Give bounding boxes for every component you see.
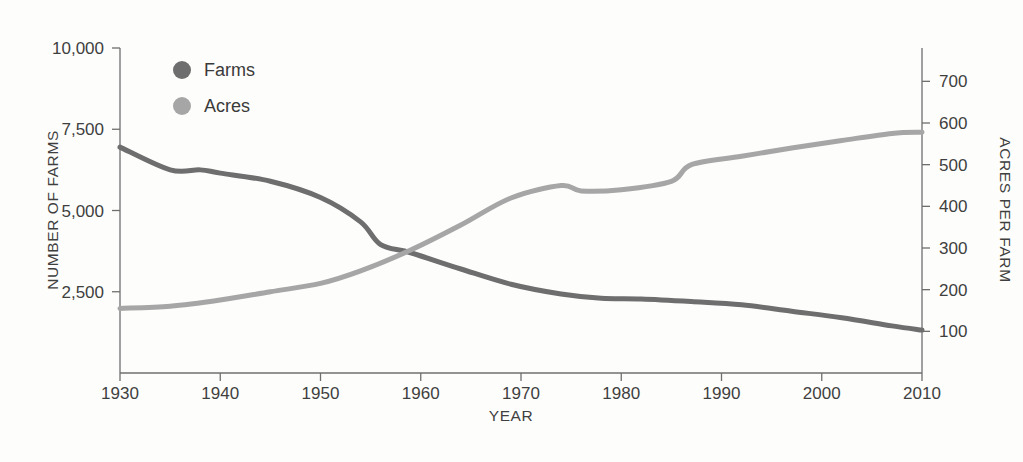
x-tick-label: 1950 [302,384,340,403]
x-axis-title: YEAR [489,407,534,424]
legend-label-farms: Farms [204,60,255,80]
right-tick-label: 700 [939,72,967,91]
legend-marker-farms [173,61,191,79]
left-tick-label: 5,000 [61,202,104,221]
x-tick-label: 2000 [803,384,841,403]
x-tick-label: 1960 [402,384,440,403]
legend-marker-acres [173,97,191,115]
x-tick-label: 1990 [703,384,741,403]
left-tick-label: 10,000 [52,39,104,58]
right-tick-label: 400 [939,197,967,216]
x-tick-label: 2010 [903,384,941,403]
x-tick-label: 1970 [502,384,540,403]
line-chart: 2,5005,0007,50010,000 100200300400500600… [0,0,1023,462]
left-tick-label: 2,500 [61,283,104,302]
x-tick-label: 1930 [101,384,139,403]
right-tick-label: 600 [939,114,967,133]
left-tick-label: 7,500 [61,120,104,139]
right-tick-label: 300 [939,239,967,258]
x-tick-label: 1980 [602,384,640,403]
legend-label-acres: Acres [204,96,250,116]
chart-canvas: 2,5005,0007,50010,000 100200300400500600… [0,0,1023,462]
x-tick-label: 1940 [201,384,239,403]
right-tick-label: 200 [939,281,967,300]
right-tick-label: 100 [939,322,967,341]
y-right-axis-title: ACRES PER FARM [997,137,1014,282]
y-left-axis-title: NUMBER OF FARMS [44,130,61,290]
right-tick-label: 500 [939,156,967,175]
